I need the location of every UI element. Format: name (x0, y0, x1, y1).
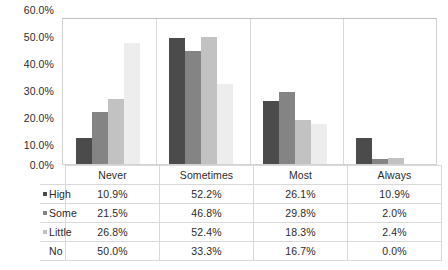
legend-swatch-icon (43, 249, 47, 253)
bar-little-always (388, 158, 404, 164)
table-cell-high-never: 10.9% (66, 185, 160, 204)
legend-entry-little: Little (40, 223, 66, 242)
table-cell-high-always: 10.9% (348, 185, 442, 204)
table-cell-no-sometimes: 33.3% (160, 242, 254, 261)
y-axis-tick-20: 20.0% (24, 112, 54, 124)
category-divider (343, 19, 344, 164)
table-cell-no-always: 0.0% (348, 242, 442, 261)
plot-area (62, 18, 437, 165)
table-cell-some-never: 21.5% (66, 204, 160, 223)
bar-high-never (76, 138, 92, 164)
table-cell-high-most: 26.1% (254, 185, 348, 204)
table-cell-little-never: 26.8% (66, 223, 160, 242)
legend-entry-no: No (40, 242, 66, 261)
table-cell-no-most: 16.7% (254, 242, 348, 261)
table-cell-little-sometimes: 52.4% (160, 223, 254, 242)
legend-label: Little (49, 227, 72, 238)
y-axis-tick-30: 30.0% (24, 85, 54, 97)
table-cell-little-always: 2.4% (348, 223, 442, 242)
bar-no-most (311, 124, 327, 164)
legend-label: Some (49, 208, 77, 219)
legend-swatch-icon (43, 211, 47, 215)
table-header-row: NeverSometimesMostAlways (40, 166, 442, 185)
bars-container (63, 19, 436, 164)
bar-no-never (124, 43, 140, 164)
table-cell-some-always: 2.0% (348, 204, 442, 223)
y-axis-tick-40: 40.0% (24, 58, 54, 70)
table-cell-some-sometimes: 46.8% (160, 204, 254, 223)
table-row: No50.0%33.3%16.7%0.0% (40, 242, 442, 261)
table-row: Some21.5%46.8%29.8%2.0% (40, 204, 442, 223)
bar-little-sometimes (201, 37, 217, 164)
category-divider (250, 19, 251, 164)
table-cell-high-sometimes: 52.2% (160, 185, 254, 204)
y-axis-tick-60: 60.0% (24, 4, 54, 16)
legend-label: High (49, 189, 71, 200)
bar-group-always (343, 19, 436, 164)
legend-label: No (49, 246, 63, 257)
table-cell-little-most: 18.3% (254, 223, 348, 242)
bar-high-always (356, 138, 372, 164)
legend-swatch-icon (43, 230, 47, 234)
bar-group-most (250, 19, 343, 164)
category-divider (156, 19, 157, 164)
legend-entry-some: Some (40, 204, 66, 223)
table-corner-cell (40, 166, 66, 185)
chart-with-data-table: 60.0% 50.0% 40.0% 30.0% 20.0% 10.0% 0.0%… (0, 0, 448, 270)
bar-no-sometimes (217, 84, 233, 164)
table-column-header-most: Most (254, 166, 348, 185)
legend-entry-high: High (40, 185, 66, 204)
bar-group-never (63, 19, 156, 164)
bar-high-sometimes (169, 38, 185, 164)
y-axis-tick-10: 10.0% (24, 139, 54, 151)
bar-some-always (372, 159, 388, 164)
table-cell-some-most: 29.8% (254, 204, 348, 223)
bar-group-sometimes (156, 19, 249, 164)
table-column-header-always: Always (348, 166, 442, 185)
bar-high-most (263, 101, 279, 164)
legend-swatch-icon (43, 192, 47, 196)
table-cell-no-never: 50.0% (66, 242, 160, 261)
bar-some-never (92, 112, 108, 164)
bar-little-never (108, 99, 124, 164)
table-column-header-never: Never (66, 166, 160, 185)
data-table: NeverSometimesMostAlwaysHigh10.9%52.2%26… (40, 165, 442, 261)
bar-little-most (295, 120, 311, 164)
bar-some-sometimes (185, 51, 201, 164)
table-row: High10.9%52.2%26.1%10.9% (40, 185, 442, 204)
table-row: Little26.8%52.4%18.3%2.4% (40, 223, 442, 242)
y-axis-tick-50: 50.0% (24, 31, 54, 43)
table-column-header-sometimes: Sometimes (160, 166, 254, 185)
y-axis: 60.0% 50.0% 40.0% 30.0% 20.0% 10.0% 0.0% (0, 10, 58, 172)
bar-some-most (279, 92, 295, 164)
